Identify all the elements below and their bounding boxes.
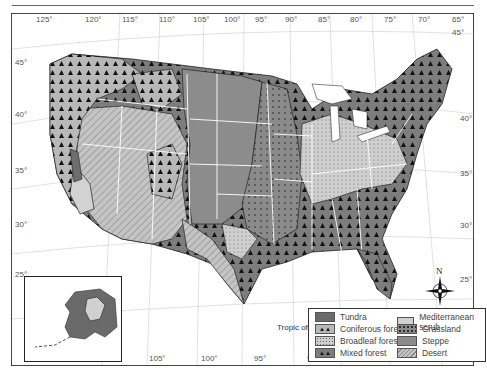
lon-label-85: 85°	[318, 15, 330, 24]
legend-item-tundra: Tundra	[315, 312, 367, 322]
legend-label: Coniferous forest	[340, 324, 405, 334]
legend-label: Mixed forest	[340, 348, 386, 358]
lon-label-75: 75°	[384, 15, 396, 24]
legend-item-mixed: ▲▲ Mixed forest	[315, 348, 386, 358]
lon-label-90: 90°	[285, 15, 297, 24]
lon-label-70: 70°	[418, 15, 430, 24]
lat-label-right-45: 45°	[452, 28, 464, 37]
tundra-swatch	[315, 312, 335, 322]
lat-label-left-40: 40°	[15, 110, 27, 119]
lat-label-right-30: 30°	[460, 221, 472, 230]
legend-item-broadleaf: Broadleaf forest	[315, 336, 400, 346]
legend-item-desert: Desert	[397, 348, 447, 358]
lon-label-80: 80°	[350, 15, 362, 24]
compass-icon	[425, 276, 455, 306]
alaska-inset	[24, 276, 122, 362]
lon-label-115: 115°	[122, 15, 138, 24]
legend-label: Desert	[422, 348, 447, 358]
legend-label: Steppe	[422, 336, 449, 346]
lon-label-95: 95°	[255, 15, 267, 24]
lat-label-right-40: 40°	[460, 114, 472, 123]
lon-label-110: 110°	[159, 15, 175, 24]
top-rule	[12, 5, 474, 6]
lat-label-right-35: 35°	[460, 169, 472, 178]
lake-huron	[352, 109, 367, 129]
lon-label-100: 100°	[224, 15, 241, 24]
lon-bottom-95: 95°	[254, 354, 266, 363]
grassland-swatch	[397, 324, 417, 334]
legend: Tundra ▲▲ Coniferous forest Broadleaf fo…	[308, 308, 486, 362]
compass-north-label: N	[436, 266, 443, 276]
legend-label: Grassland	[422, 324, 461, 334]
broadleaf-swatch	[315, 336, 335, 346]
lat-label-left-30: 30°	[15, 220, 27, 229]
legend-label: Broadleaf forest	[340, 336, 400, 346]
lon-label-125: 125°	[36, 15, 53, 24]
legend-item-grassland: Grassland	[397, 324, 461, 334]
lon-bottom-105: 105°	[149, 354, 166, 363]
coniferous-swatch: ▲▲	[315, 324, 335, 334]
lake-michigan	[330, 106, 340, 142]
mixed-swatch: ▲▲	[315, 348, 335, 358]
desert-swatch	[397, 348, 417, 358]
lat-label-left-35: 35°	[15, 166, 27, 175]
lon-label-65: 65°	[452, 15, 464, 24]
lon-bottom-100: 100°	[201, 354, 218, 363]
compass-rose: N	[425, 266, 455, 306]
lat-label-left-45: 45°	[15, 58, 27, 67]
steppe-swatch	[397, 336, 417, 346]
legend-label: Tundra	[340, 312, 367, 322]
legend-item-steppe: Steppe	[397, 336, 449, 346]
alaska-map	[25, 277, 121, 361]
lon-label-120: 120°	[85, 15, 102, 24]
lat-label-right-25: 25°	[460, 275, 472, 284]
legend-item-coniferous: ▲▲ Coniferous forest	[315, 324, 405, 334]
lon-label-105: 105°	[193, 15, 210, 24]
